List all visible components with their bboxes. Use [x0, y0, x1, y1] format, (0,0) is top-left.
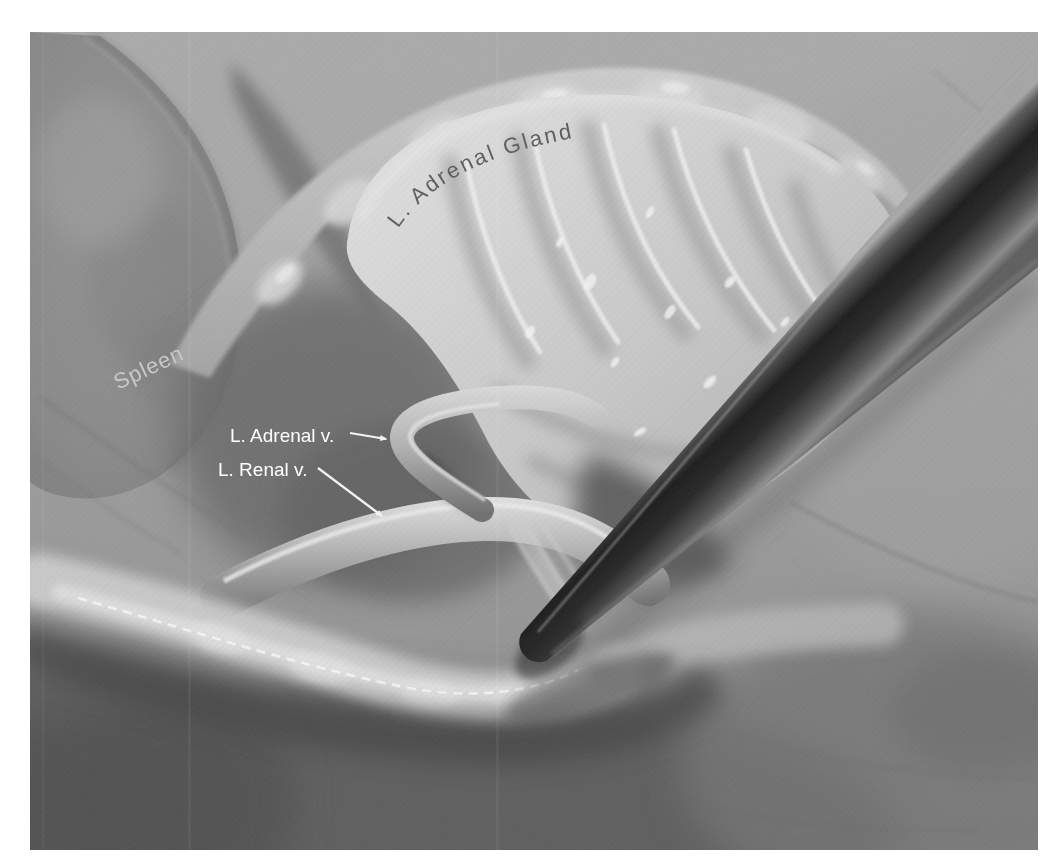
surgical-illustration: L. Adrenal Gland Spleen L. Adrenal v. L.… [30, 32, 1038, 850]
adrenal-vein-label: L. Adrenal v. [230, 425, 334, 446]
page: L. Adrenal Gland Spleen L. Adrenal v. L.… [0, 0, 1055, 862]
illustration-canvas: L. Adrenal Gland Spleen L. Adrenal v. L.… [30, 32, 1038, 850]
print-texture [30, 32, 1038, 850]
renal-vein-label: L. Renal v. [218, 459, 307, 480]
